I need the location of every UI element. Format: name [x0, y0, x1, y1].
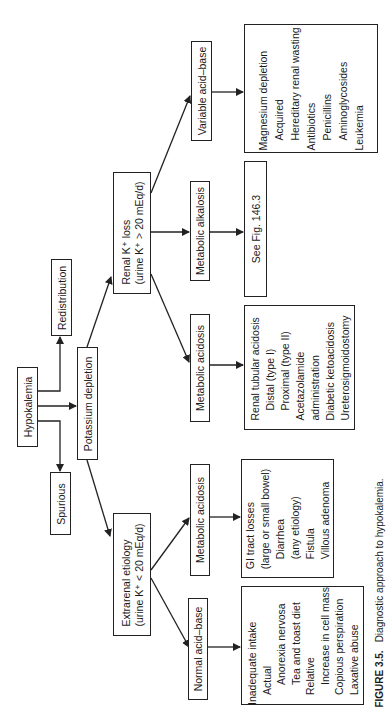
- list-item: Renal tubular acidosis: [247, 315, 262, 420]
- list-item: Fistula: [303, 468, 318, 568]
- renal-acidosis-causes-list: Renal tubular acidosis Distal (type I) P…: [247, 315, 352, 420]
- figure-caption: FIGURE 3.5.Diagnostic approach to hypoka…: [374, 478, 385, 707]
- list-item: (any etiology): [288, 468, 303, 568]
- figure-label: FIGURE 3.5.: [374, 650, 385, 707]
- list-item: Diabetic ketoacidosis: [322, 315, 337, 420]
- list-item: Acquired: [271, 27, 287, 150]
- figure-caption-text: Diagnostic approach to hypokalemia.: [374, 478, 385, 642]
- magnesium-causes-box: Magnesium depletion Acquired Hereditary …: [244, 24, 378, 153]
- list-item: Leukemia: [351, 27, 367, 150]
- list-item: Tea and toast diet: [288, 586, 303, 704]
- extrarenal-box: Extrarenal etiology (urine K⁺ < 20 mEq/d…: [113, 513, 151, 636]
- metabolic-alkalosis-box: Metabolic alkalosis: [190, 181, 210, 281]
- gi-losses-list: GI tract losses (large or small bowel) D…: [243, 468, 333, 568]
- extrarenal-metabolic-acidosis-label: Metabolic acidosis: [194, 477, 207, 563]
- normal-acid-base-label: Normal acid–base: [192, 607, 205, 692]
- extrarenal-metabolic-acidosis-box: Metabolic acidosis: [190, 464, 210, 576]
- hypokalemia-label: Hypokalemia: [21, 377, 34, 438]
- renal-loss-box: Renal K⁺ loss (urine K⁺ > 20 mEq/d): [113, 172, 151, 294]
- list-item: Penicillins: [319, 27, 335, 150]
- list-item: Diarrhea: [273, 468, 288, 568]
- list-item: administration: [307, 315, 322, 420]
- variable-acid-base-label: Variable acid–base: [195, 47, 208, 136]
- list-item: Villous adenoma: [318, 468, 333, 568]
- renal-metabolic-acidosis-box: Metabolic acidosis: [190, 314, 210, 422]
- list-item: Laxative abuse: [346, 586, 361, 704]
- see-fig-box: See Fig. 146.3: [244, 161, 267, 297]
- list-item: Copious perspiration: [332, 586, 347, 704]
- list-item: Actual: [259, 586, 274, 704]
- metabolic-alkalosis-label: Metabolic alkalosis: [194, 187, 207, 275]
- gi-losses-box: GI tract losses (large or small bowel) D…: [241, 459, 334, 578]
- list-item: Proximal (type II): [277, 315, 292, 420]
- spurious-box: Spurious: [50, 472, 71, 535]
- inadequate-intake-box: Inadequate intake Actual Anorexia nervos…: [241, 586, 364, 705]
- spurious-label: Spurious: [54, 483, 67, 524]
- list-item: Hereditary renal wasting: [287, 27, 303, 150]
- list-item: Distal (type I): [262, 315, 277, 420]
- list-item: Anorexia nervosa: [274, 586, 289, 704]
- list-item: GI tract losses: [243, 468, 258, 568]
- list-item: Relative: [303, 586, 318, 704]
- list-item: Ureterosigmoidostomy: [337, 315, 352, 420]
- redistribution-label: Redistribution: [55, 265, 68, 329]
- potassium-depletion-label: Potassium depletion: [81, 356, 94, 451]
- renal-metabolic-acidosis-label: Metabolic acidosis: [194, 325, 207, 411]
- list-item: Antibiotics: [303, 27, 319, 150]
- hypokalemia-box: Hypokalemia: [17, 367, 38, 447]
- list-item: Inadequate intake: [245, 586, 260, 704]
- renal-acidosis-causes-box: Renal tubular acidosis Distal (type I) P…: [244, 305, 355, 430]
- potassium-depletion-box: Potassium depletion: [77, 347, 98, 460]
- list-item: Acetazolamide: [292, 315, 307, 420]
- variable-acid-base-box: Variable acid–base: [191, 41, 212, 141]
- list-item: Increase in cell mass: [317, 586, 332, 704]
- extrarenal-label: Extrarenal etiology (urine K⁺ < 20 mEq/d…: [120, 523, 145, 626]
- list-item: Magnesium depletion: [255, 27, 271, 150]
- see-fig-label: See Fig. 146.3: [249, 195, 262, 263]
- renal-loss-label: Renal K⁺ loss (urine K⁺ > 20 mEq/d): [120, 181, 145, 284]
- list-item: (large or small bowel): [258, 468, 273, 568]
- normal-causes-list: Inadequate intake Actual Anorexia nervos…: [245, 586, 361, 704]
- normal-acid-base-box: Normal acid–base: [188, 598, 208, 700]
- variable-causes-list: Magnesium depletion Acquired Hereditary …: [255, 27, 367, 150]
- redistribution-box: Redistribution: [51, 259, 72, 336]
- list-item: Aminoglycosides: [335, 27, 351, 150]
